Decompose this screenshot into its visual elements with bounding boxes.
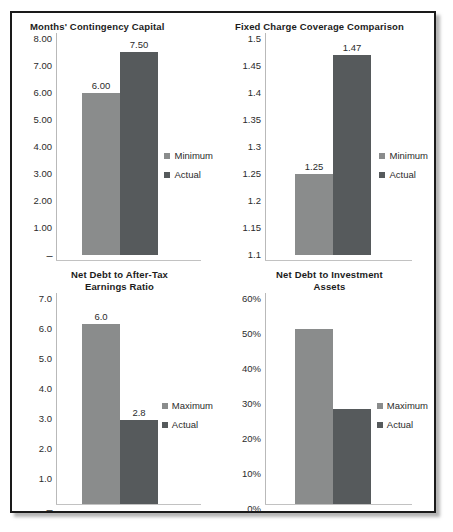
- plot-area: 6.0 2.8 Maximum: [56, 293, 219, 505]
- y-tick-label: 5.0: [39, 354, 52, 364]
- bar-actual[interactable]: 2.8: [120, 420, 158, 504]
- legend-label: Actual: [172, 420, 198, 430]
- bar-value-label: 2.8: [132, 408, 145, 418]
- chart-title: Fixed Charge Coverage Comparison: [225, 17, 434, 33]
- y-tick-label: 3.0: [39, 414, 52, 424]
- bar-maximum[interactable]: 6.0: [82, 324, 120, 504]
- bar-minimum[interactable]: 1.25: [295, 174, 333, 255]
- y-tick-label: 1.00: [34, 223, 53, 233]
- page-root: Months' Contingency Capital 8.00 7.00 6.…: [0, 0, 453, 532]
- chart-title: Net Debt to Investment Assets: [225, 265, 434, 293]
- plot-area-wrapper: 1.5 1.45 1.4 1.35 1.3 1.25 1.2 1.15 1.1: [225, 33, 434, 261]
- y-tick-label: 1.45: [243, 61, 262, 71]
- y-tick-label: 10%: [242, 469, 261, 479]
- bar-maximum[interactable]: [295, 329, 333, 504]
- y-axis-line: [265, 33, 266, 261]
- bar-group: 6.0 2.8: [82, 293, 158, 504]
- y-axis-ticks: 7.0 6.0 5.0 4.0 3.0 2.0 1.0 –: [16, 293, 56, 505]
- chart-title-line1: Net Debt to After-Tax: [71, 269, 168, 280]
- y-tick-label: 20%: [242, 434, 261, 444]
- legend-label: Minimum: [174, 151, 213, 161]
- bar-group: 1.25 1.47: [295, 38, 371, 255]
- charts-panel: Months' Contingency Capital 8.00 7.00 6.…: [10, 11, 436, 513]
- legend-label: Actual: [174, 170, 200, 180]
- y-tick-label: –: [46, 250, 52, 260]
- plot-area-wrapper: 8.00 7.00 6.00 5.00 4.00 3.00 2.00 1.00 …: [16, 33, 223, 261]
- legend-item-actual[interactable]: Actual: [377, 420, 428, 430]
- y-axis-ticks: 1.5 1.45 1.4 1.35 1.3 1.25 1.2 1.15 1.1: [225, 33, 265, 261]
- y-tick-label: –: [46, 504, 52, 514]
- chart-title: Net Debt to After-Tax Earnings Ratio: [16, 265, 223, 293]
- y-tick-label: 1.0: [39, 474, 52, 484]
- bar-actual[interactable]: 1.47: [333, 55, 371, 255]
- y-tick-label: 1.5: [248, 34, 261, 44]
- plot-area-wrapper: 7.0 6.0 5.0 4.0 3.0 2.0 1.0 –: [16, 293, 223, 505]
- chart-months-contingency-capital: Months' Contingency Capital 8.00 7.00 6.…: [16, 17, 223, 267]
- bar-value-label: 7.50: [130, 40, 149, 50]
- bar-group: 6.00 7.50: [82, 38, 158, 255]
- y-tick-label: 4.0: [39, 384, 52, 394]
- y-tick-label: 50%: [242, 329, 261, 339]
- y-tick-label: 5.00: [34, 115, 53, 125]
- bar-value-label: 6.0: [94, 312, 107, 322]
- bar-value-label: 1.47: [343, 43, 362, 53]
- bar-actual[interactable]: 7.50: [120, 52, 158, 255]
- y-tick-label: 30%: [242, 399, 261, 409]
- legend-label: Maximum: [172, 401, 213, 411]
- legend-item-actual[interactable]: Actual: [379, 170, 428, 180]
- x-axis-line: [265, 504, 412, 505]
- chart-title-line2: Assets: [313, 281, 345, 292]
- y-axis-line: [56, 33, 57, 261]
- bar-group: [295, 293, 371, 504]
- x-axis-line: [56, 504, 201, 505]
- legend-item-minimum[interactable]: Minimum: [379, 151, 428, 161]
- legend-item-minimum[interactable]: Minimum: [164, 151, 213, 161]
- bar-minimum[interactable]: 6.00: [82, 93, 120, 255]
- y-tick-label: 2.00: [34, 196, 53, 206]
- y-axis-ticks: 60% 50% 40% 30% 20% 10% 0%: [225, 293, 265, 505]
- plot-area-wrapper: 60% 50% 40% 30% 20% 10% 0%: [225, 293, 434, 505]
- legend: Minimum Actual: [164, 151, 213, 189]
- legend-item-maximum[interactable]: Maximum: [162, 401, 213, 411]
- y-tick-label: 6.0: [39, 324, 52, 334]
- y-tick-label: 1.4: [248, 88, 261, 98]
- y-tick-label: 40%: [242, 364, 261, 374]
- chart-title-line1: Net Debt to Investment: [276, 269, 383, 280]
- chart-fixed-charge-coverage-comparison: Fixed Charge Coverage Comparison 1.5 1.4…: [225, 17, 434, 267]
- legend-swatch-icon: [164, 153, 170, 159]
- y-tick-label: 3.00: [34, 169, 53, 179]
- bar-actual[interactable]: [333, 409, 371, 504]
- y-tick-label: 7.00: [34, 61, 53, 71]
- y-tick-label: 1.3: [248, 142, 261, 152]
- y-tick-label: 60%: [242, 294, 261, 304]
- legend-swatch-icon: [164, 172, 170, 178]
- y-tick-label: 1.15: [243, 223, 262, 233]
- x-axis-line: [265, 260, 412, 261]
- legend-label: Maximum: [387, 401, 428, 411]
- y-tick-label: 1.35: [243, 115, 262, 125]
- y-tick-label: 1.1: [248, 250, 261, 260]
- charts-grid: Months' Contingency Capital 8.00 7.00 6.…: [12, 13, 434, 511]
- legend-label: Actual: [389, 170, 415, 180]
- legend-item-actual[interactable]: Actual: [162, 420, 213, 430]
- legend-swatch-icon: [162, 422, 168, 428]
- legend-swatch-icon: [377, 403, 383, 409]
- plot-area: 1.25 1.47 Minimum: [265, 33, 430, 261]
- legend-label: Actual: [387, 420, 413, 430]
- plot-area: Maximum Actual: [265, 293, 430, 505]
- y-tick-label: 7.0: [39, 294, 52, 304]
- legend-item-maximum[interactable]: Maximum: [377, 401, 428, 411]
- y-axis-ticks: 8.00 7.00 6.00 5.00 4.00 3.00 2.00 1.00 …: [16, 33, 56, 261]
- plot-area: 6.00 7.50 Minimum: [56, 33, 219, 261]
- legend-item-actual[interactable]: Actual: [164, 170, 213, 180]
- bar-value-label: 1.25: [305, 162, 324, 172]
- legend-swatch-icon: [379, 153, 385, 159]
- legend: Maximum Actual: [162, 401, 213, 439]
- y-tick-label: 8.00: [34, 34, 53, 44]
- bar-value-label: 6.00: [92, 81, 111, 91]
- legend: Minimum Actual: [379, 151, 428, 189]
- y-tick-label: 0%: [247, 504, 261, 514]
- legend: Maximum Actual: [377, 401, 428, 439]
- legend-label: Minimum: [389, 151, 428, 161]
- legend-swatch-icon: [379, 172, 385, 178]
